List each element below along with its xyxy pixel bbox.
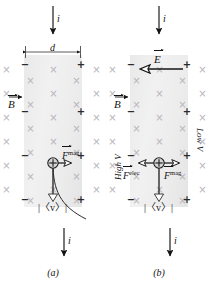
field-cross-marker: × <box>198 113 207 122</box>
field-cross-marker: × <box>155 89 164 98</box>
field-cross-marker: × <box>92 65 101 74</box>
edge-charge-sign-negative: − <box>126 196 136 204</box>
edge-charge-sign-negative: − <box>126 108 136 116</box>
field-cross-marker: × <box>155 161 164 170</box>
field-cross-marker: × <box>2 137 11 146</box>
field-cross-marker: × <box>178 76 187 85</box>
panel-b: ×××××××××××××××××××××××××××××× <box>106 0 212 291</box>
field-cross-marker: × <box>49 137 58 146</box>
vector-overbar-icon <box>154 50 163 54</box>
magnetic-force-label-b: Fmag <box>164 170 181 181</box>
edge-charge-sign-positive: + <box>182 61 192 69</box>
field-cross-marker: × <box>2 161 11 170</box>
field-cross-marker: × <box>198 65 207 74</box>
field-cross-marker: × <box>198 161 207 170</box>
field-cross-marker: × <box>49 65 58 74</box>
panel-caption-a: (a) <box>0 267 106 278</box>
field-cross-marker: × <box>49 185 58 194</box>
field-cross-marker: × <box>198 185 207 194</box>
field-cross-marker: × <box>155 113 164 122</box>
velocity-label-b: |〈v〉| <box>144 203 173 213</box>
field-cross-marker: × <box>72 124 81 133</box>
field-cross-marker: × <box>132 76 141 85</box>
edge-charge-sign-positive: + <box>76 196 86 204</box>
edge-charge-sign-negative: − <box>20 61 30 69</box>
current-label-top-b: i <box>163 14 166 24</box>
width-label-d: d <box>50 43 55 53</box>
field-cross-marker: × <box>132 124 141 133</box>
field-cross-marker: × <box>155 137 164 146</box>
magnetic-field-cross-grid-a: ×××××××××××××××××××××××××××××× <box>0 55 106 207</box>
vector-overbar-icon <box>123 166 132 170</box>
field-cross-marker: × <box>92 137 101 146</box>
field-cross-marker: × <box>2 65 11 74</box>
edge-charge-sign-positive: + <box>76 61 86 69</box>
field-cross-marker: × <box>26 124 35 133</box>
field-cross-marker: × <box>72 76 81 85</box>
velocity-label-a: |〈v〉| <box>38 203 67 213</box>
field-cross-marker: × <box>2 185 11 194</box>
field-cross-marker: × <box>2 113 11 122</box>
bfield-label-a: B <box>8 99 15 110</box>
field-cross-marker: × <box>49 161 58 170</box>
current-label-bottom-b: i <box>174 236 177 246</box>
vector-overbar-icon <box>164 166 173 170</box>
panel-caption-b: (b) <box>106 267 212 278</box>
efield-label-b: E <box>154 54 161 65</box>
field-cross-marker: × <box>178 124 187 133</box>
field-cross-marker: × <box>108 113 117 122</box>
edge-charge-sign-positive: + <box>182 152 192 160</box>
hall-effect-figure: ×××××××××××××××××××××××××××××× <box>0 0 212 291</box>
voltage-label-high: High V <box>114 154 123 180</box>
edge-charge-sign-negative: − <box>20 196 30 204</box>
edge-charge-sign-positive: + <box>182 196 192 204</box>
field-cross-marker: × <box>49 113 58 122</box>
field-cross-marker: × <box>108 185 117 194</box>
voltage-label-low: Low V <box>195 128 204 151</box>
field-cross-marker: × <box>155 65 164 74</box>
current-label-bottom-a: i <box>68 236 71 246</box>
edge-charge-sign-negative: − <box>126 61 136 69</box>
edge-charge-sign-negative: − <box>20 108 30 116</box>
vector-overbar-icon <box>8 95 17 99</box>
edge-charge-sign-negative: − <box>20 152 30 160</box>
bfield-label-b: B <box>114 99 121 110</box>
vector-overbar-icon <box>62 146 71 150</box>
field-cross-marker: × <box>92 161 101 170</box>
edge-charge-sign-positive: + <box>76 108 86 116</box>
field-cross-marker: × <box>108 137 117 146</box>
field-cross-marker: × <box>92 185 101 194</box>
field-cross-marker: × <box>108 65 117 74</box>
panel-a: ×××××××××××××××××××××××××××××× <box>0 0 106 291</box>
field-cross-marker: × <box>72 172 81 181</box>
edge-charge-sign-negative: − <box>126 152 136 160</box>
electric-force-label-b: Felec <box>123 170 140 181</box>
edge-charge-sign-positive: + <box>182 108 192 116</box>
current-label-top-a: i <box>57 14 60 24</box>
field-cross-marker: × <box>26 76 35 85</box>
field-cross-marker: × <box>26 172 35 181</box>
field-cross-marker: × <box>155 185 164 194</box>
field-cross-marker: × <box>92 113 101 122</box>
field-cross-marker: × <box>92 89 101 98</box>
field-cross-marker: × <box>49 89 58 98</box>
field-cross-marker: × <box>198 89 207 98</box>
edge-charge-sign-positive: + <box>76 152 86 160</box>
vector-overbar-icon <box>114 95 123 99</box>
